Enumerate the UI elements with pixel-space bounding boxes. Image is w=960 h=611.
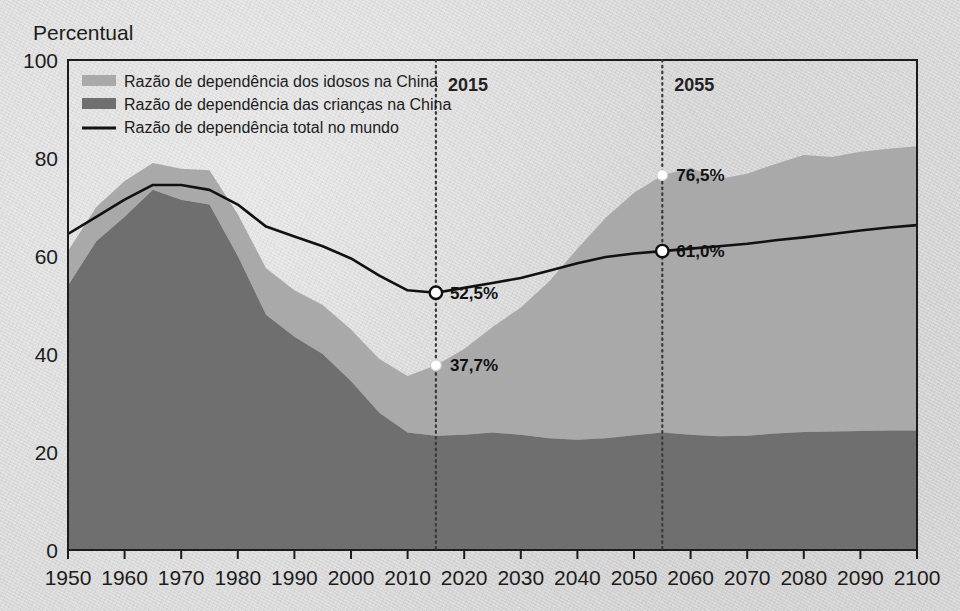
legend-swatch-elderly (82, 75, 116, 86)
y-tick-label: 60 (35, 245, 58, 268)
annotation-value-label: 52,5% (450, 284, 498, 303)
x-tick-label: 2000 (328, 566, 375, 589)
stacked-area-series (68, 146, 917, 550)
reference-line-year-label: 2015 (448, 75, 488, 95)
dependency-ratio-chart-figure: Percentual 020406080100 1950196019701980… (0, 0, 960, 611)
annotation-marker (431, 360, 442, 371)
x-tick-label: 2060 (667, 566, 714, 589)
chart-canvas: Percentual 020406080100 1950196019701980… (0, 0, 960, 611)
y-tick-label: 40 (35, 343, 58, 366)
legend-swatch-children (82, 98, 116, 109)
annotation-marker (430, 287, 442, 299)
y-tick-label: 0 (46, 539, 58, 562)
x-tick-label: 2030 (497, 566, 544, 589)
x-tick-label: 1970 (158, 566, 205, 589)
chart-legend: Razão de dependência dos idosos na China… (82, 73, 451, 136)
x-tick-label: 1980 (214, 566, 261, 589)
y-tick-label: 80 (35, 147, 58, 170)
plot-area (68, 146, 917, 550)
x-tick-label: 2010 (384, 566, 431, 589)
x-tick-label: 2050 (611, 566, 658, 589)
x-tick-label: 1950 (45, 566, 92, 589)
reference-line-year-label: 2055 (674, 75, 714, 95)
legend-item-label: Razão de dependência dos idosos na China (124, 73, 438, 90)
x-tick-label: 2020 (441, 566, 488, 589)
annotation-value-label: 37,7% (450, 356, 498, 375)
legend-item-label: Razão de dependência das crianças na Chi… (124, 96, 451, 113)
x-tick-label: 2070 (724, 566, 771, 589)
legend-item-label: Razão de dependência total no mundo (124, 119, 399, 136)
annotation-marker (657, 170, 668, 181)
x-axis-tick-labels: 1950196019701980199020002010202020302040… (45, 550, 941, 589)
x-tick-label: 2090 (837, 566, 884, 589)
y-axis-title: Percentual (33, 21, 133, 44)
x-tick-label: 1990 (271, 566, 318, 589)
y-tick-label: 100 (23, 49, 58, 72)
y-axis-tick-labels: 020406080100 (23, 49, 58, 562)
annotation-value-label: 61,0% (676, 242, 724, 261)
annotation-marker (656, 245, 668, 257)
x-tick-label: 1960 (101, 566, 148, 589)
x-tick-label: 2100 (894, 566, 941, 589)
x-tick-label: 2080 (780, 566, 827, 589)
x-tick-label: 2040 (554, 566, 601, 589)
y-tick-label: 20 (35, 441, 58, 464)
annotation-value-label: 76,5% (676, 166, 724, 185)
